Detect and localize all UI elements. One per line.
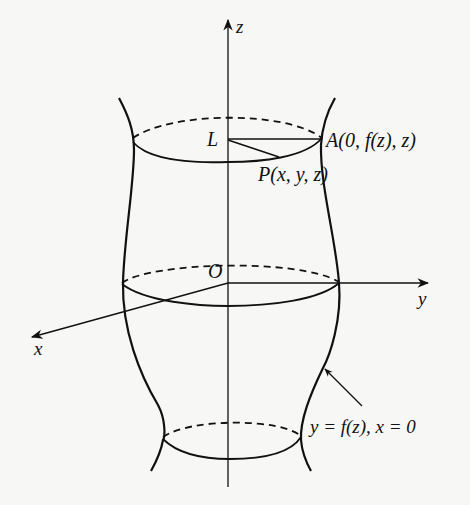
z-axis-label: z xyxy=(235,16,244,37)
curve-annotation-pointer xyxy=(325,369,362,406)
bottom-ring-front xyxy=(163,437,301,459)
curve-annotation-label: y = f(z), x = 0 xyxy=(308,416,416,438)
x-axis-label: x xyxy=(33,338,43,359)
y-axis-label: y xyxy=(416,288,427,309)
x-axis xyxy=(32,283,228,337)
point-A-label: A(0, f(z), z) xyxy=(324,129,416,152)
point-L-label: L xyxy=(206,128,218,150)
bottom-ring-back xyxy=(163,423,301,437)
surface-left-profile xyxy=(119,98,164,471)
middle-ring-back xyxy=(122,266,339,283)
surface-of-revolution-figure: z y x O L A(0, f(z), z) P(x, y, z) y = f… xyxy=(0,0,470,505)
origin-label: O xyxy=(208,260,222,282)
segment-LP xyxy=(228,140,279,157)
middle-ring-front xyxy=(122,283,339,306)
point-P-label: P(x, y, z) xyxy=(257,163,328,186)
